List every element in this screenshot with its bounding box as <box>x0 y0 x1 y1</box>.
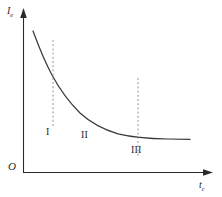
x-axis-label-subscript: c <box>202 185 205 192</box>
origin-label: O <box>8 161 16 172</box>
x-axis-arrow-icon <box>203 169 213 176</box>
chart-figure: Ie tc O I II III <box>0 0 222 197</box>
region-label-2: II <box>81 130 88 140</box>
y-axis-arrow-icon <box>20 8 27 18</box>
region-label-3: III <box>131 145 142 155</box>
decay-curve <box>33 31 190 139</box>
y-axis-label-subscript: e <box>10 11 13 18</box>
chart-canvas <box>0 0 222 197</box>
y-axis-label: Ie <box>7 6 13 19</box>
x-axis-label: tc <box>199 180 205 193</box>
region-label-1: I <box>46 127 50 137</box>
